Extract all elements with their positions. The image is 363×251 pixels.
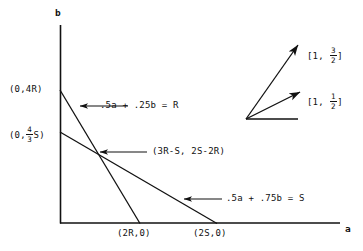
fraction-four-thirds: 43 bbox=[26, 126, 33, 143]
fraction-denominator: 2 bbox=[330, 102, 337, 110]
intercept-label-b-S-suffix: S) bbox=[34, 130, 45, 140]
vector-label-lower-prefix: [1, bbox=[307, 97, 329, 107]
fraction-three-halves: 32 bbox=[330, 47, 337, 64]
b-axis-label: b bbox=[55, 8, 61, 18]
figure-canvas bbox=[0, 0, 363, 251]
vector-label-upper: [1, 32] bbox=[307, 47, 343, 64]
equation-label-R: .5a + .25b = R bbox=[100, 101, 179, 110]
fraction-one-half: 12 bbox=[330, 93, 337, 110]
a-axis-label: a bbox=[345, 224, 351, 234]
intercept-label-a-S: (2S,0) bbox=[193, 229, 227, 238]
intercept-label-a-R: (2R,0) bbox=[117, 229, 151, 238]
vector-arrow-lower bbox=[246, 92, 300, 119]
fraction-numerator: 1 bbox=[330, 93, 337, 102]
fraction-numerator: 4 bbox=[26, 126, 33, 135]
linear-program-figure: b a (0,4R) (0,43S) (2R,0) (2S,0) .5a + .… bbox=[0, 0, 363, 251]
constraint-line-R bbox=[60, 90, 140, 224]
equation-label-S: .5a + .75b = S bbox=[226, 194, 305, 203]
vector-label-upper-prefix: [1, bbox=[307, 51, 329, 61]
vector-label-upper-suffix: ] bbox=[337, 51, 343, 61]
intercept-label-b-S-prefix: (0, bbox=[9, 130, 26, 140]
vector-arrow-upper bbox=[246, 45, 298, 119]
fraction-denominator: 3 bbox=[26, 135, 33, 143]
vector-label-lower-suffix: ] bbox=[337, 97, 343, 107]
intercept-label-b-S: (0,43S) bbox=[9, 126, 45, 143]
intersection-point-label: (3R-S, 2S-2R) bbox=[152, 147, 225, 156]
vector-label-lower: [1, 12] bbox=[307, 93, 343, 110]
fraction-denominator: 2 bbox=[330, 56, 337, 64]
fraction-numerator: 3 bbox=[330, 47, 337, 56]
intercept-label-b-R: (0,4R) bbox=[9, 85, 43, 94]
